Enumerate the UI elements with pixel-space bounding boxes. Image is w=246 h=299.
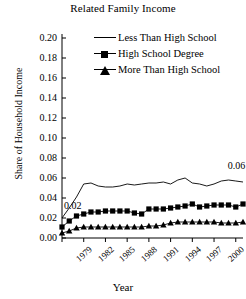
data-point-marker <box>103 208 108 213</box>
x-axis-label: Year <box>0 281 246 293</box>
y-tick-label: 0.10 <box>23 133 57 143</box>
y-tick-label: 0.16 <box>23 73 57 83</box>
data-point-marker <box>139 211 144 216</box>
y-tick-label: 0.04 <box>23 193 57 203</box>
legend-item-high-school-degree: High School Degree <box>92 46 220 61</box>
data-point-marker <box>175 204 180 209</box>
y-tick-label: 0.14 <box>23 93 57 103</box>
line-key-icon <box>92 32 118 44</box>
start-value-annotation: 0.02 <box>64 201 82 211</box>
data-point-marker <box>110 208 115 213</box>
end-value-annotation: 0.06 <box>228 161 246 171</box>
data-point-marker <box>219 202 224 207</box>
data-point-marker <box>226 202 231 207</box>
data-point-marker <box>59 224 64 229</box>
data-point-marker <box>233 204 238 209</box>
legend-label: More Than High School <box>118 64 220 75</box>
data-point-marker <box>240 219 246 225</box>
y-tick-label: 0.12 <box>23 113 57 123</box>
chart-legend: Less Than High School High School Degree… <box>92 30 220 78</box>
data-point-marker <box>125 208 130 213</box>
legend-item-more-than-high-school: More Than High School <box>92 62 220 77</box>
y-tick-label: 0.20 <box>23 33 57 43</box>
data-point-marker <box>96 209 101 214</box>
legend-item-less-than-high-school: Less Than High School <box>92 30 220 45</box>
y-tick-label: 0.18 <box>23 53 57 63</box>
data-point-marker <box>211 202 216 207</box>
square-marker-key-icon <box>92 48 118 60</box>
data-point-marker <box>197 204 202 209</box>
data-point-marker <box>74 213 79 218</box>
data-point-marker <box>182 203 187 208</box>
data-point-marker <box>161 206 166 211</box>
data-point-marker <box>67 218 72 223</box>
data-point-marker <box>81 211 86 216</box>
data-point-marker <box>204 203 209 208</box>
y-tick-label: 0.02 <box>23 213 57 223</box>
y-tick-label: 0.00 <box>23 233 57 243</box>
data-point-marker <box>168 205 173 210</box>
data-point-marker <box>190 201 195 206</box>
chart-container: Related Family Income Share of Household… <box>0 0 246 299</box>
data-point-marker <box>117 208 122 213</box>
legend-label: High School Degree <box>118 48 204 59</box>
data-point-marker <box>154 206 159 211</box>
triangle-marker-key-icon <box>92 64 118 76</box>
y-tick-label: 0.08 <box>23 153 57 163</box>
data-point-marker <box>88 209 93 214</box>
data-point-marker <box>146 206 151 211</box>
legend-label: Less Than High School <box>118 32 217 43</box>
y-tick-label: 0.06 <box>23 173 57 183</box>
data-point-marker <box>132 210 137 215</box>
data-point-marker <box>66 228 72 234</box>
data-point-marker <box>240 201 245 206</box>
